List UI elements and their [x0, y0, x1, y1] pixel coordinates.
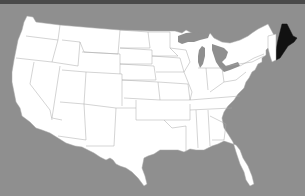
us-landmass — [12, 16, 276, 186]
state-maine — [276, 24, 297, 60]
us-map — [0, 0, 305, 196]
state-new-hampshire — [268, 34, 276, 62]
